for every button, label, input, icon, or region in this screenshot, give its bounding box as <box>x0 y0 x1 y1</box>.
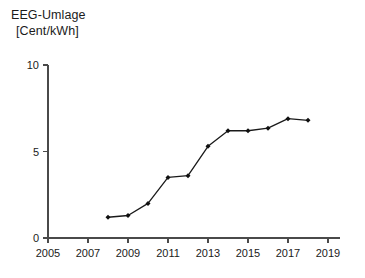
series-line-path <box>108 119 308 218</box>
x-axis-tick-label: 2005 <box>36 247 60 259</box>
x-axis-tick-label: 2019 <box>316 247 340 259</box>
x-axis-tick-label: 2011 <box>156 247 180 259</box>
x-axis-tick-label: 2007 <box>76 247 100 259</box>
x-axis-tick-label: 2009 <box>116 247 140 259</box>
x-axis-tick-label: 2017 <box>276 247 300 259</box>
data-point-marker <box>306 118 311 123</box>
x-axis-tick-label: 2013 <box>196 247 220 259</box>
y-axis: 0510 <box>27 59 48 244</box>
data-point-marker <box>266 126 271 131</box>
x-axis: 20052007200920112013201520172019 <box>36 238 340 259</box>
chart-plot-area: 0510 20052007200920112013201520172019 <box>0 0 365 278</box>
data-point-marker <box>106 215 111 220</box>
y-axis-tick-label: 10 <box>27 59 39 71</box>
x-axis-tick-label: 2015 <box>236 247 260 259</box>
y-axis-tick-label: 5 <box>33 146 39 158</box>
data-point-marker <box>246 128 251 133</box>
chart-screenshot: EEG-Umlage [Cent/kWh] 0510 2005200720092… <box>0 0 365 278</box>
y-axis-tick-label: 0 <box>33 232 39 244</box>
data-point-marker <box>286 116 291 121</box>
data-series-eeg-umlage <box>106 116 311 220</box>
